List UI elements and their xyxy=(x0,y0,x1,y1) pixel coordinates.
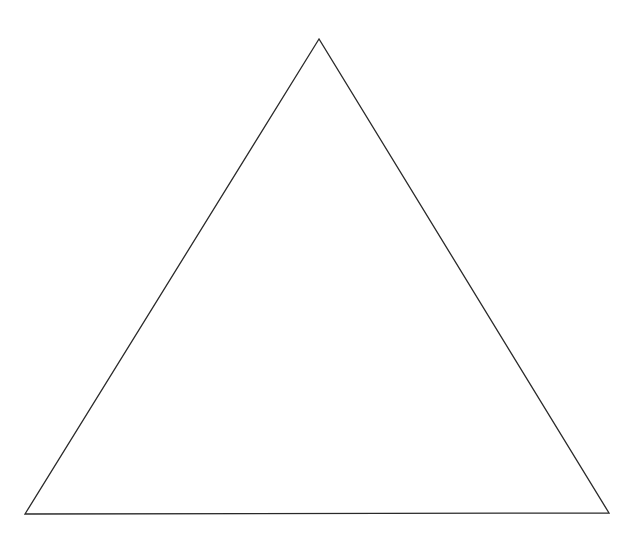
triangle-diagram xyxy=(0,0,641,541)
drawing-canvas xyxy=(0,0,641,541)
triangle-shape xyxy=(25,39,609,514)
